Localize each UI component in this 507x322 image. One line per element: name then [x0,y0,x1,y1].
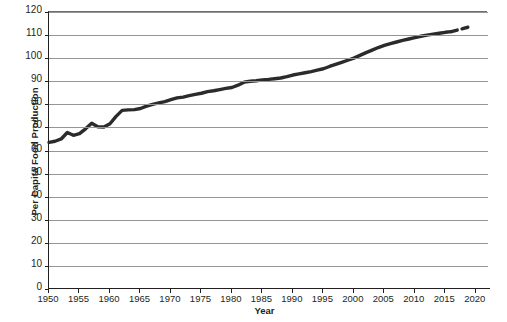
y-tick-mark [45,174,49,175]
y-tick-mark [45,220,49,221]
gridline [49,81,488,82]
y-tick-mark [45,243,49,244]
x-axis-title: Year [0,305,507,316]
gridline [49,197,488,198]
x-tick-label: 2020 [455,293,495,304]
x-axis-line [48,288,490,289]
y-tick-mark [45,12,49,13]
data-line [49,32,451,143]
y-tick-label: 80 [16,96,42,107]
y-tick-label: 0 [16,281,42,292]
gridline [49,58,488,59]
y-tick-mark [45,104,49,105]
y-tick-mark [45,81,49,82]
plot-area [48,11,487,288]
y-tick-label: 50 [16,166,42,177]
y-tick-mark [45,197,49,198]
y-tick-label: 30 [16,212,42,223]
y-tick-mark [45,58,49,59]
gridline [49,35,488,36]
y-tick-label: 70 [16,119,42,130]
gridline [49,12,488,13]
y-tick-label: 40 [16,189,42,200]
y-tick-label: 120 [16,4,42,15]
gridline [49,266,488,267]
y-tick-label: 60 [16,143,42,154]
y-tick-mark [45,35,49,36]
gridline [49,220,488,221]
projection-line [451,27,469,32]
y-tick-mark [45,127,49,128]
y-tick-mark [45,151,49,152]
gridline [49,151,488,152]
y-tick-label: 90 [16,73,42,84]
y-tick-label: 10 [16,258,42,269]
gridline [49,127,488,128]
gridline [49,104,488,105]
chart-container: Per Capita Food Production 0102030405060… [0,0,507,322]
y-tick-label: 100 [16,50,42,61]
gridline [49,174,488,175]
y-tick-label: 20 [16,235,42,246]
y-tick-mark [45,266,49,267]
y-tick-label: 110 [16,27,42,38]
gridline [49,243,488,244]
